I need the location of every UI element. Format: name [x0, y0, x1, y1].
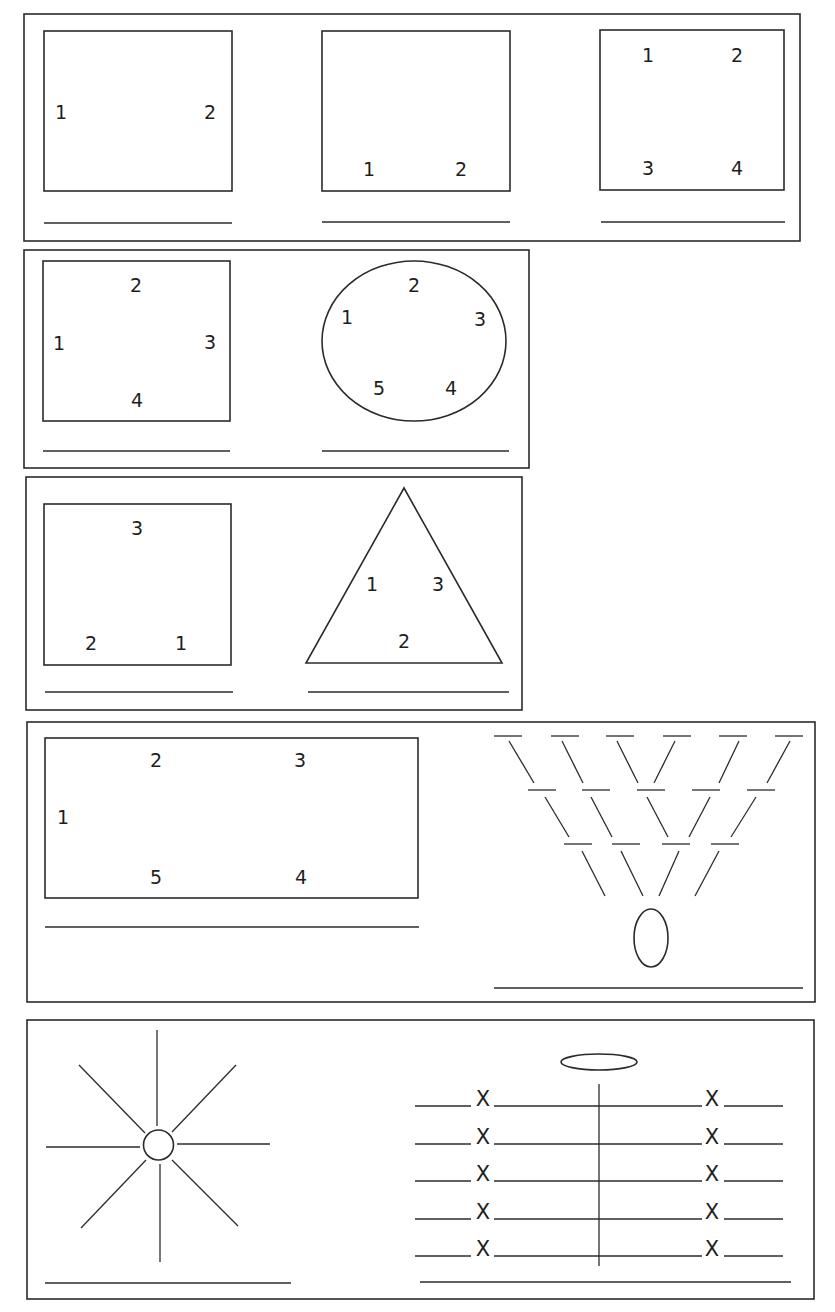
ray-ne [172, 1065, 236, 1132]
x-marker-left: X [476, 1162, 490, 1186]
label-1: 1 [55, 101, 67, 123]
label-1: 1 [642, 44, 654, 66]
label-4: 4 [731, 157, 743, 179]
label-2: 2 [150, 749, 162, 771]
x-marker-right: X [705, 1237, 719, 1261]
panel-3: 3 2 1 1 3 2 [26, 477, 522, 710]
target-ellipse [561, 1054, 637, 1070]
panel-1-square-2: 1 2 [322, 31, 510, 222]
label-3: 3 [474, 308, 486, 330]
label-2: 2 [731, 44, 743, 66]
x-marker-right: X [705, 1200, 719, 1224]
panel-5: X X X X X X [27, 1020, 814, 1299]
panel-2-border [24, 250, 529, 468]
x-marker-left: X [476, 1125, 490, 1149]
panel-2: 1 2 3 4 1 2 3 4 5 [24, 250, 529, 468]
square-shape [600, 30, 784, 190]
label-3: 3 [294, 749, 306, 771]
label-2: 2 [204, 101, 216, 123]
panel-5-border [27, 1020, 814, 1299]
panel-1: 1 2 1 2 1 2 3 4 [24, 14, 800, 241]
rectangle-shape [45, 738, 418, 898]
label-1: 1 [175, 632, 187, 654]
ray-sw [81, 1160, 146, 1228]
label-4: 4 [295, 866, 307, 888]
panel-1-square-3: 1 2 3 4 [600, 30, 785, 222]
label-1: 1 [57, 806, 69, 828]
label-3: 3 [642, 157, 654, 179]
label-2: 2 [85, 632, 97, 654]
label-2: 2 [455, 158, 467, 180]
panel-2-circle: 1 2 3 4 5 [322, 261, 509, 451]
ray-nw [79, 1065, 145, 1133]
diagram-canvas: 1 2 1 2 1 2 3 4 1 2 3 4 [0, 0, 835, 1312]
panel-4-rectangle: 1 2 3 4 5 [45, 738, 419, 927]
label-3: 3 [204, 331, 216, 353]
panel-4-v-formation [494, 736, 803, 988]
x-marker-left: X [476, 1087, 490, 1111]
ray-se [172, 1160, 238, 1226]
label-1: 1 [363, 158, 375, 180]
label-2: 2 [130, 274, 142, 296]
panel-1-border [24, 14, 800, 241]
label-4: 4 [445, 377, 457, 399]
label-2: 2 [408, 274, 420, 296]
x-marker-left: X [476, 1200, 490, 1224]
panel-3-border [26, 477, 522, 710]
panel-4-border [27, 722, 815, 1002]
x-marker-left: X [476, 1237, 490, 1261]
square-shape [322, 31, 510, 191]
label-5: 5 [373, 377, 385, 399]
label-4: 4 [131, 389, 143, 411]
label-1: 1 [53, 332, 65, 354]
label-1: 1 [366, 573, 378, 595]
sun-center-circle [144, 1130, 174, 1160]
x-marker-right: X [705, 1087, 719, 1111]
panel-5-sunburst [45, 1030, 291, 1283]
x-marker-right: X [705, 1162, 719, 1186]
panel-5-rows-with-x: X X X X X X [415, 1054, 791, 1282]
panel-1-square-1: 1 2 [44, 31, 232, 223]
panel-4: 1 2 3 4 5 [27, 722, 815, 1002]
panel-3-square: 3 2 1 [44, 504, 233, 692]
panel-2-square: 1 2 3 4 [43, 261, 230, 451]
label-3: 3 [432, 573, 444, 595]
label-2: 2 [398, 630, 410, 652]
x-marker-right: X [705, 1125, 719, 1149]
connectors-1 [509, 741, 790, 783]
label-1: 1 [341, 306, 353, 328]
label-5: 5 [150, 866, 162, 888]
connectors-2 [545, 797, 756, 837]
panel-3-triangle: 1 3 2 [306, 488, 509, 692]
label-3: 3 [131, 517, 143, 539]
target-ellipse [634, 909, 668, 967]
connectors-3 [582, 851, 719, 896]
